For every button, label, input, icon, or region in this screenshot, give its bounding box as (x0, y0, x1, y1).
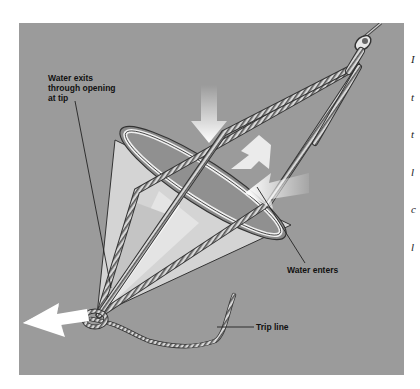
label-water-enters: Water enters (287, 265, 338, 275)
side-text-line: l (411, 241, 417, 254)
side-text-line: t (411, 91, 417, 104)
label-water-exits: Water exits through opening at tip (48, 73, 116, 103)
diagram-panel: Water exits through opening at tip Water… (19, 23, 404, 375)
exit-leader-line (75, 101, 111, 288)
side-text-line: l (411, 166, 417, 179)
side-text-line: c (411, 203, 417, 216)
cropped-side-text: I t t l c l (411, 28, 417, 266)
label-trip-line: Trip line (256, 322, 289, 332)
side-text-line: t (411, 128, 417, 141)
shackle-icon (352, 23, 381, 53)
side-text-line: I (411, 53, 417, 66)
